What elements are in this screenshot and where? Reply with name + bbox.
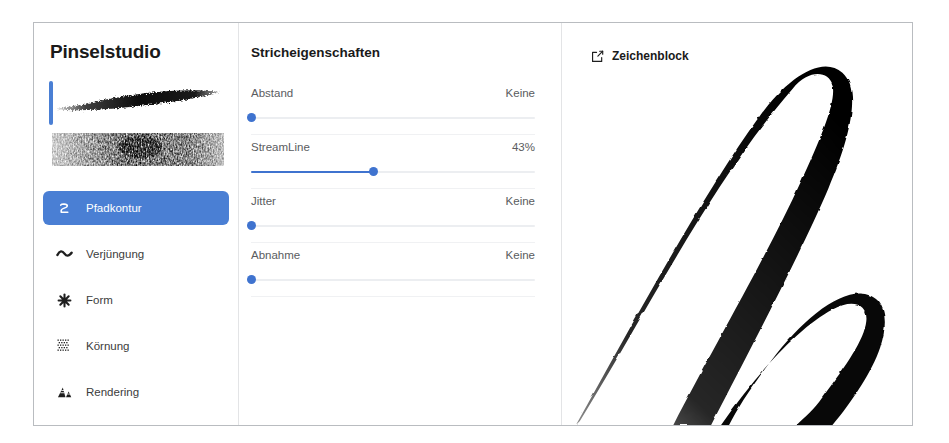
brush-preview-textured-block[interactable] xyxy=(52,127,224,173)
slider-label: Abstand xyxy=(251,87,293,99)
slider-thumb[interactable] xyxy=(247,221,256,230)
grain-grid-icon xyxy=(54,336,74,356)
brush-preview-tapered-stroke[interactable] xyxy=(52,79,224,125)
slider-label: StreamLine xyxy=(251,141,310,153)
slider-thumb[interactable] xyxy=(369,167,378,176)
sidebar-item-label: Pfadkontur xyxy=(86,202,142,214)
screenshot-root: Pinselstudio xyxy=(0,0,949,443)
sidebar-item-label: Rendering xyxy=(86,386,139,398)
slider-track xyxy=(251,117,535,119)
slider-row-abnahme: Abnahme Keine xyxy=(251,243,535,297)
sidebar-item-verjuengung[interactable]: Verjüngung xyxy=(43,237,229,271)
slider-abstand[interactable] xyxy=(251,113,535,123)
slider-value: Keine xyxy=(506,87,535,99)
canvas-panel[interactable]: Zeichenblock xyxy=(562,23,912,425)
sidebar-item-form[interactable]: Form xyxy=(43,283,229,317)
slider-fill xyxy=(251,171,373,173)
slider-label: Jitter xyxy=(251,195,276,207)
slider-thumb[interactable] xyxy=(247,275,256,284)
slider-row-abstand: Abstand Keine xyxy=(251,81,535,135)
slider-value: Keine xyxy=(506,195,535,207)
properties-panel: Stricheigenschaften Abstand Keine xyxy=(238,23,561,425)
sidebar-item-pfadkontur[interactable]: Pfadkontur xyxy=(43,191,229,225)
shape-star-icon xyxy=(54,290,74,310)
slider-jitter[interactable] xyxy=(251,221,535,231)
sidebar-item-koernung[interactable]: Körnung xyxy=(43,329,229,363)
sidebar-nav-list: Pfadkontur Verjüngung xyxy=(34,191,238,421)
slider-row-jitter: Jitter Keine xyxy=(251,189,535,243)
slider-track xyxy=(251,225,535,227)
slider-track xyxy=(251,279,535,281)
sidebar-item-label: Form xyxy=(86,294,113,306)
sidebar-item-label: Verjüngung xyxy=(86,248,144,260)
taper-wave-icon xyxy=(54,244,74,264)
slider-label: Abnahme xyxy=(251,249,300,261)
rendering-mountain-icon xyxy=(54,382,74,402)
slider-separator xyxy=(251,296,535,297)
sidebar-item-label: Körnung xyxy=(86,340,129,352)
sidebar-item-rendering[interactable]: Rendering xyxy=(43,375,229,409)
slider-list: Abstand Keine StreamLine 43% xyxy=(251,81,535,297)
app-title: Pinselstudio xyxy=(50,41,161,63)
canvas-artwork[interactable] xyxy=(562,23,912,425)
slider-row-streamline: StreamLine 43% xyxy=(251,135,535,189)
properties-panel-title: Stricheigenschaften xyxy=(251,45,380,60)
slider-thumb[interactable] xyxy=(247,113,256,122)
path-outline-icon xyxy=(54,198,74,218)
slider-value: 43% xyxy=(512,141,535,153)
sidebar: Pinselstudio xyxy=(34,23,238,425)
slider-abnahme[interactable] xyxy=(251,275,535,285)
slider-value: Keine xyxy=(506,249,535,261)
app-window: Pinselstudio xyxy=(33,22,913,426)
slider-streamline[interactable] xyxy=(251,167,535,177)
